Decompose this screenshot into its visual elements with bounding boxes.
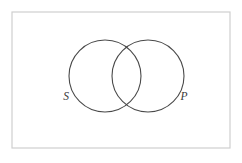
venn-diagram-canvas: S P <box>0 0 242 163</box>
set-label-p: P <box>179 90 187 102</box>
circle-predicate-p <box>112 40 184 112</box>
diagram-border <box>12 12 230 148</box>
set-label-s: S <box>63 90 69 102</box>
venn-diagram-figure: S P <box>0 0 242 163</box>
circle-subject-s <box>69 40 141 112</box>
